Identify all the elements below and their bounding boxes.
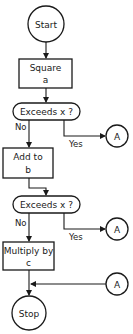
decision1-yes-label: Yes	[68, 139, 83, 149]
start-label: Start	[35, 20, 57, 30]
process-add-to-b: Add to b	[3, 148, 53, 178]
process-square-a-line2: a	[43, 75, 49, 85]
decision2-label: Exceeds x ?	[20, 200, 73, 210]
arrow-decision2-yes	[64, 213, 105, 229]
decision1-label: Exceeds x ?	[20, 107, 73, 117]
process-multiply-line1: Multiply by	[4, 246, 54, 256]
process-add-to-b-line2: b	[25, 165, 31, 175]
connector-a-2: A	[106, 218, 128, 240]
start-terminal: Start	[28, 6, 64, 42]
process-multiply-by-c: Multiply by c	[3, 242, 54, 270]
decision-exceeds-x-1: Exceeds x ?	[13, 103, 80, 120]
arrow-add-to-decision2	[29, 178, 46, 195]
decision-exceeds-x-2: Exceeds x ?	[13, 196, 80, 213]
process-multiply-line2: c	[26, 258, 31, 268]
arrow-decision1-yes	[64, 120, 105, 136]
connector1-label: A	[114, 132, 121, 142]
decision1-no-label: No	[15, 122, 27, 132]
process-square-a: Square a	[19, 59, 72, 88]
stop-label: Stop	[19, 309, 40, 319]
flowchart: Start Square a Exceeds x ? No Yes A Add …	[0, 0, 133, 334]
decision2-no-label: No	[15, 218, 27, 228]
stop-terminal: Stop	[12, 296, 46, 330]
connector3-label: A	[114, 280, 121, 290]
process-square-a-line1: Square	[30, 63, 62, 73]
connector2-label: A	[114, 225, 121, 235]
connector-a-1: A	[106, 125, 128, 147]
process-add-to-b-line1: Add to	[13, 152, 43, 162]
decision2-yes-label: Yes	[68, 232, 83, 242]
connector-a-3: A	[106, 273, 128, 295]
